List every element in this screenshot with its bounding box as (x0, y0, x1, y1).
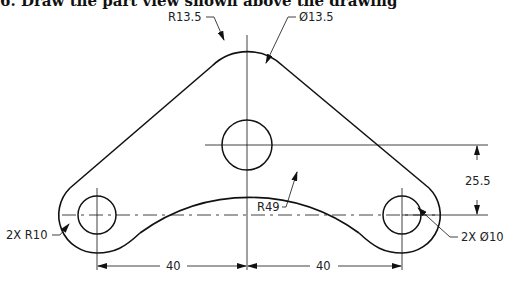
bottom-left-fillet (97, 233, 140, 253)
label-right-span: 40 (316, 259, 331, 273)
left-lobe-arc (59, 188, 97, 253)
bottom-right-fillet (359, 233, 402, 253)
label-top-hole: Ø13.5 (299, 10, 334, 24)
part-outline (59, 52, 441, 253)
part-drawing: R13.5 Ø13.5 25.5 R49 2X R10 2X Ø10 40 40 (0, 0, 521, 285)
leader-o10 (418, 208, 458, 237)
label-top-radius: R13.5 (168, 10, 202, 24)
label-left-span: 40 (166, 259, 181, 273)
right-upper-edge (283, 66, 429, 188)
left-upper-edge (70, 66, 212, 188)
right-lobe-arc (402, 188, 440, 253)
label-end-radius: 2X R10 (6, 228, 47, 242)
label-arc-radius: R49 (257, 200, 280, 214)
centerlines (62, 35, 488, 270)
label-end-holes: 2X Ø10 (461, 230, 504, 244)
label-vertical-dim: 25.5 (465, 174, 491, 188)
leader-r13-5 (206, 17, 224, 40)
top-arc (212, 52, 283, 66)
